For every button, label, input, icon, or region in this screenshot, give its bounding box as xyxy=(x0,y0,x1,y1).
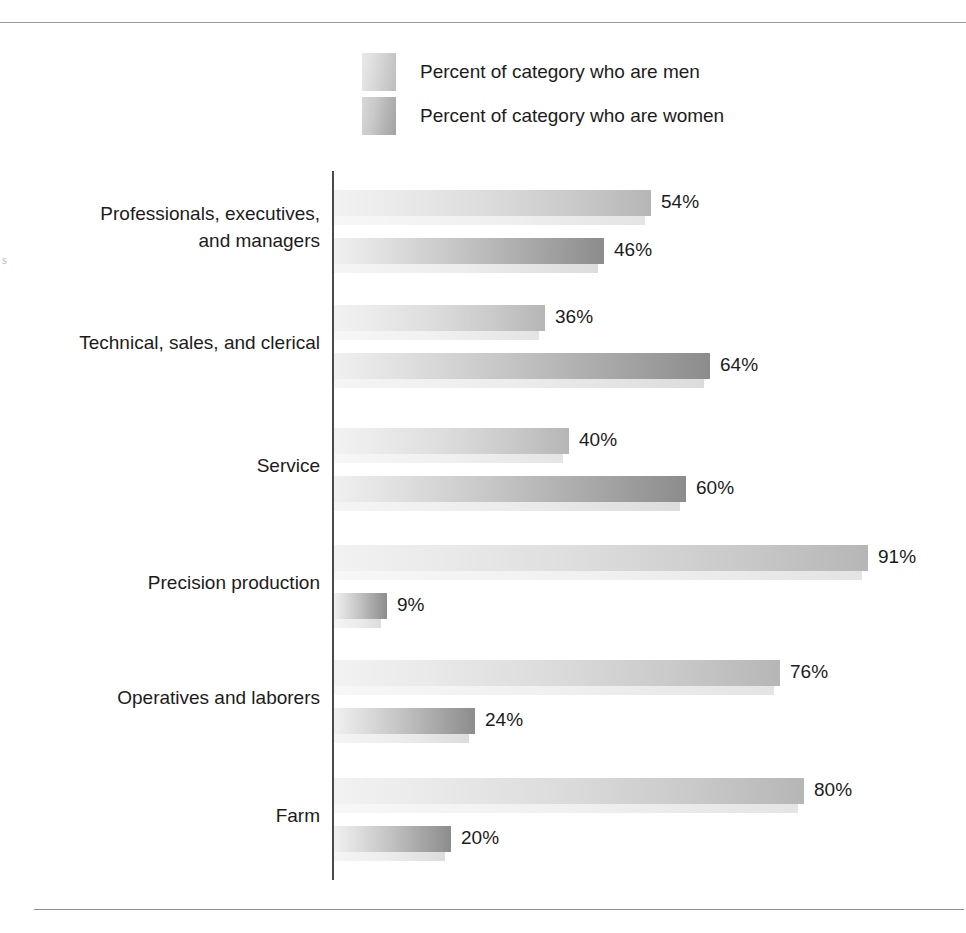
bar-men xyxy=(334,190,651,216)
bar-women xyxy=(334,353,710,379)
bar-group: 80% xyxy=(334,778,804,813)
bar-value-label: 54% xyxy=(661,191,699,213)
bar-value-label: 60% xyxy=(696,477,734,499)
bar-value-label: 76% xyxy=(790,661,828,683)
bar-shadow xyxy=(334,686,774,695)
bar-value-label: 80% xyxy=(814,779,852,801)
bar-group: 46% xyxy=(334,238,604,273)
category-label: Technical, sales, and clerical xyxy=(79,329,320,356)
bar-value-label: 64% xyxy=(720,354,758,376)
bar-shadow xyxy=(334,852,445,861)
bar-value-label: 20% xyxy=(461,827,499,849)
bar-group: 9% xyxy=(334,593,387,628)
bar-shadow xyxy=(334,454,563,463)
category-label: Operatives and laborers xyxy=(117,684,320,711)
category-label: Precision production xyxy=(148,569,320,596)
bar-men xyxy=(334,778,804,804)
bar-shadow xyxy=(334,379,704,388)
bar-men xyxy=(334,305,545,331)
bar-value-label: 91% xyxy=(878,546,916,568)
bar-shadow xyxy=(334,331,539,340)
category-label: Professionals, executives, and managers xyxy=(100,200,320,254)
bar-women xyxy=(334,238,604,264)
bar-men xyxy=(334,545,868,571)
bar-value-label: 46% xyxy=(614,239,652,261)
bar-value-label: 40% xyxy=(579,429,617,451)
bar-men xyxy=(334,428,569,454)
bar-value-label: 36% xyxy=(555,306,593,328)
bar-men xyxy=(334,660,780,686)
bar-group: 40% xyxy=(334,428,569,463)
bar-group: 60% xyxy=(334,476,686,511)
bar-shadow xyxy=(334,216,645,225)
bar-shadow xyxy=(334,804,798,813)
bar-group: 36% xyxy=(334,305,545,340)
bar-shadow xyxy=(334,264,598,273)
chart-axis-line xyxy=(332,171,334,880)
bar-women xyxy=(334,708,475,734)
bar-group: 91% xyxy=(334,545,868,580)
category-label: Farm xyxy=(276,802,320,829)
bar-women xyxy=(334,593,387,619)
bar-group: 54% xyxy=(334,190,651,225)
bar-value-label: 9% xyxy=(397,594,424,616)
bar-group: 24% xyxy=(334,708,475,743)
bar-value-label: 24% xyxy=(485,709,523,731)
bar-women xyxy=(334,826,451,852)
chart-plot-area: Professionals, executives, and managers … xyxy=(0,0,966,933)
bar-group: 64% xyxy=(334,353,710,388)
bar-group: 20% xyxy=(334,826,451,861)
bar-group: 76% xyxy=(334,660,780,695)
bar-shadow xyxy=(334,734,469,743)
bar-shadow xyxy=(334,502,680,511)
bar-shadow xyxy=(334,571,862,580)
category-label: Service xyxy=(257,452,320,479)
bar-women xyxy=(334,476,686,502)
bar-shadow xyxy=(334,619,381,628)
